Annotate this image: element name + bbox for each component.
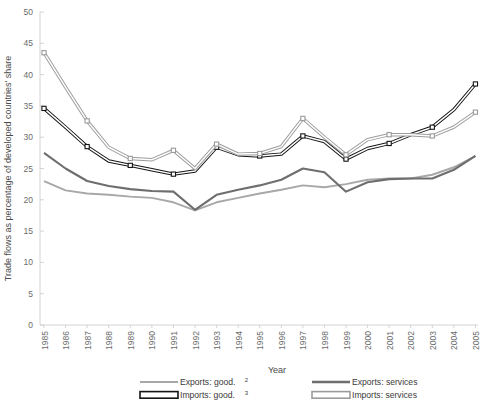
x-tick-label: 1995 (255, 331, 265, 350)
x-tick-label: 2003 (428, 331, 438, 350)
data-point-marker (430, 125, 434, 129)
data-point-marker (171, 148, 175, 152)
data-point-marker (214, 142, 218, 146)
x-tick-label: 1997 (298, 331, 308, 350)
y-tick-label: 5 (28, 289, 33, 299)
y-tick-label: 50 (24, 7, 34, 17)
data-point-marker (344, 153, 348, 157)
x-tick-label: 1988 (104, 331, 114, 350)
series-line (44, 156, 475, 210)
y-tick-label: 15 (24, 226, 34, 236)
x-axis-title: Year (268, 365, 286, 375)
data-point-marker (85, 144, 89, 148)
y-tick-label: 10 (24, 257, 34, 267)
data-point-marker (301, 116, 305, 120)
data-point-marker (42, 51, 46, 55)
data-point-marker (387, 133, 391, 137)
trade-flows-line-chart: 0510152025303540455019851986198719881989… (0, 0, 486, 409)
x-tick-label: 2004 (449, 331, 459, 350)
data-point-marker (430, 134, 434, 138)
data-point-marker (42, 106, 46, 110)
x-tick-label: 1999 (342, 331, 352, 350)
legend-swatch (312, 392, 350, 399)
data-point-marker (301, 134, 305, 138)
x-tick-label: 1985 (40, 331, 50, 350)
data-point-marker (473, 82, 477, 86)
gridlines: 05101520253035404550 (24, 7, 44, 330)
legend-label: Exports: services (352, 377, 417, 387)
series-line-inner (44, 84, 475, 174)
y-tick-label: 20 (24, 195, 34, 205)
x-tick-label: 2000 (363, 331, 373, 350)
x-tick-label: 1986 (61, 331, 71, 350)
x-tick-label: 1990 (147, 331, 157, 350)
data-point-marker (85, 119, 89, 123)
series-imports-services (42, 51, 478, 169)
y-tick-label: 45 (24, 38, 34, 48)
data-point-marker (258, 151, 262, 155)
y-tick-label: 25 (24, 164, 34, 174)
y-tick-label: 40 (24, 70, 34, 80)
legend-label: Exports: good. (180, 377, 235, 387)
legend-swatch (140, 392, 178, 399)
legend-label: Imports: good. (180, 390, 235, 400)
x-tick-label: 1987 (83, 331, 93, 350)
series-exports-good (44, 156, 475, 210)
data-point-marker (171, 172, 175, 176)
x-axis-labels: 1985198619871988198919901991199219931994… (40, 325, 481, 350)
legend-label: Imports: services (352, 390, 417, 400)
chart-container: 0510152025303540455019851986198719881989… (0, 0, 486, 409)
data-point-marker (473, 110, 477, 114)
y-tick-label: 35 (24, 101, 34, 111)
x-tick-label: 1998 (320, 331, 330, 350)
x-tick-label: 1992 (191, 331, 201, 350)
data-point-marker (344, 157, 348, 161)
x-tick-label: 2001 (385, 331, 395, 350)
y-axis-title: Trade flows as percentage of developed c… (3, 56, 13, 282)
x-tick-label: 2005 (471, 331, 481, 350)
data-point-marker (387, 141, 391, 145)
legend-footnote-marker: 3 (245, 390, 249, 396)
x-tick-label: 2002 (406, 331, 416, 350)
x-tick-label: 1991 (169, 331, 179, 350)
chart-legend: Exports: good.2Exports: servicesImports:… (140, 377, 417, 400)
data-point-marker (128, 156, 132, 160)
x-tick-label: 1993 (212, 331, 222, 350)
data-point-marker (128, 163, 132, 167)
y-tick-label: 0 (28, 320, 33, 330)
y-tick-label: 30 (24, 132, 34, 142)
legend-footnote-marker: 2 (245, 377, 249, 383)
x-tick-label: 1994 (234, 331, 244, 350)
series-imports-good (42, 82, 478, 176)
x-tick-label: 1989 (126, 331, 136, 350)
x-tick-label: 1996 (277, 331, 287, 350)
